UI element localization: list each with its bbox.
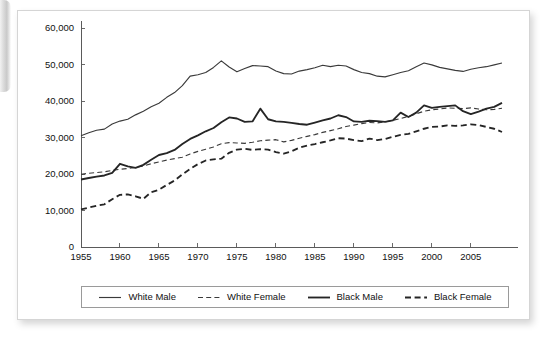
x-tick-label: 1990 xyxy=(343,251,364,262)
y-tick-label: 60,000 xyxy=(45,22,74,33)
chart-legend: White MaleWhite FemaleBlack MaleBlack Fe… xyxy=(81,286,509,308)
page-edge-strip xyxy=(0,0,11,92)
x-axis-tick-labels: 1955196019651970197519801985199019952000… xyxy=(70,251,481,262)
x-tick-label: 1995 xyxy=(382,251,403,262)
legend-item[interactable]: White Female xyxy=(197,292,286,302)
y-tick-label: 50,000 xyxy=(45,59,74,70)
legend-swatch-white-female xyxy=(197,293,221,302)
x-axis-tick-marks xyxy=(81,243,471,247)
x-tick-label: 1975 xyxy=(226,251,247,262)
x-tick-label: 1965 xyxy=(148,251,169,262)
legend-label: Black Male xyxy=(337,292,383,302)
series-black-female xyxy=(81,124,502,209)
series-black-male xyxy=(81,103,502,180)
legend-label: White Female xyxy=(227,292,286,302)
legend-swatch-black-female xyxy=(404,293,428,302)
legend-label: White Male xyxy=(128,292,176,302)
y-tick-label: 20,000 xyxy=(45,168,74,179)
x-tick-label: 1955 xyxy=(70,251,91,262)
x-tick-label: 2000 xyxy=(421,251,442,262)
legend-swatch-black-male xyxy=(307,293,331,302)
legend-item[interactable]: White Male xyxy=(98,292,176,302)
legend-item[interactable]: Black Female xyxy=(404,292,492,302)
figure-card: 010,00020,00030,00040,00050,00060,000 19… xyxy=(17,10,530,320)
y-tick-label: 40,000 xyxy=(45,95,74,106)
y-tick-label: 30,000 xyxy=(45,132,74,143)
line-chart: 010,00020,00030,00040,00050,00060,000 19… xyxy=(18,11,531,321)
x-tick-label: 1985 xyxy=(304,251,325,262)
y-tick-label: 10,000 xyxy=(45,205,74,216)
series-paths xyxy=(81,61,502,210)
legend-swatch-white-male xyxy=(98,293,122,302)
legend-label: Black Female xyxy=(434,292,492,302)
series-white-male xyxy=(81,61,502,136)
y-axis-tick-labels: 010,00020,00030,00040,00050,00060,000 xyxy=(45,22,74,252)
x-tick-label: 1960 xyxy=(109,251,130,262)
chart-svg: 010,00020,00030,00040,00050,00060,000 19… xyxy=(18,11,531,321)
x-tick-label: 1980 xyxy=(265,251,286,262)
x-tick-label: 2005 xyxy=(460,251,481,262)
legend-item[interactable]: Black Male xyxy=(307,292,383,302)
y-axis-tick-marks xyxy=(81,28,85,247)
x-tick-label: 1970 xyxy=(187,251,208,262)
